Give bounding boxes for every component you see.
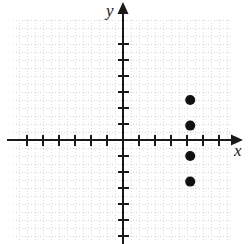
coordinate-plane-figure: y x: [0, 0, 250, 244]
plot-canvas: [0, 0, 250, 244]
data-point: [185, 151, 195, 161]
data-point: [185, 177, 195, 187]
data-point: [185, 95, 195, 105]
data-point: [185, 121, 195, 131]
y-axis-label: y: [106, 2, 114, 19]
x-axis-label: x: [234, 142, 242, 159]
